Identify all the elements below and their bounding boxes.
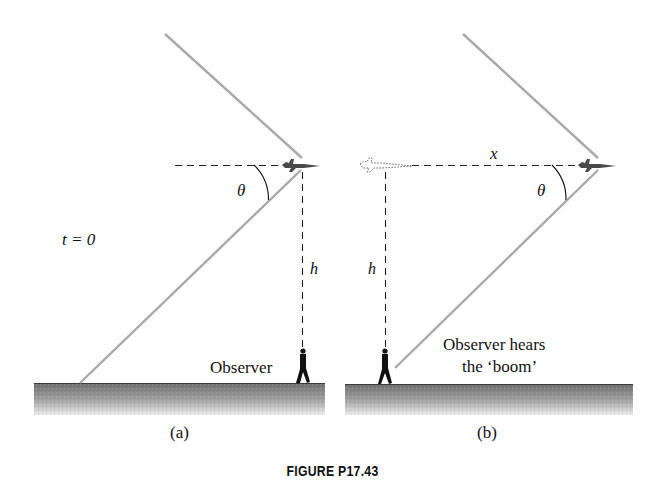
- shock-line-lower-a: [80, 170, 301, 383]
- height-label-b: h: [368, 260, 376, 277]
- angle-arc-a: [254, 165, 269, 200]
- ghost-jet-icon: [360, 158, 412, 172]
- shock-line-upper-b: [463, 34, 598, 158]
- ground-b: [345, 384, 633, 415]
- angle-arc-b: [552, 165, 566, 200]
- observer-icon-a: [296, 348, 310, 383]
- observer-icon-b: [378, 348, 392, 384]
- distance-label: x: [489, 144, 498, 163]
- shock-line-upper-a: [165, 34, 302, 158]
- panel-a: θ h t = 0 Observer (a): [34, 34, 325, 442]
- observer-label-b-line2: the ‘boom’: [462, 357, 537, 376]
- observer-label-a: Observer: [210, 358, 273, 377]
- angle-label-b: θ: [537, 181, 545, 200]
- panel-label-b: (b): [477, 423, 497, 442]
- panel-label-a: (a): [170, 423, 189, 442]
- panel-b: x θ h Observer hears the ‘boom’ (b): [345, 34, 633, 442]
- angle-label-a: θ: [237, 181, 245, 200]
- time-label: t = 0: [62, 230, 96, 249]
- ground-a: [34, 383, 325, 415]
- figure-caption: FIGURE P17.43: [60, 462, 605, 479]
- observer-label-b-line1: Observer hears: [443, 335, 545, 354]
- height-label-a: h: [310, 260, 318, 277]
